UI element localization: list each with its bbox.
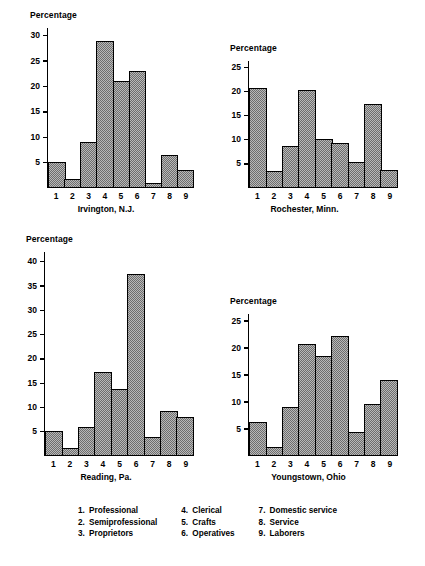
chart-panel-rochester: Percentage 510152025 123456789 Rochester… xyxy=(212,0,425,225)
bar xyxy=(129,71,146,187)
bar-group xyxy=(45,252,194,455)
y-tick-mark xyxy=(244,115,248,116)
legend-item-number: 4. xyxy=(181,505,192,517)
legend-item-label: Clerical xyxy=(192,506,222,515)
y-tick-mark xyxy=(43,137,47,138)
x-tick-labels: 123456789 xyxy=(249,192,398,201)
bar xyxy=(78,427,96,454)
legend-item: 4.Clerical xyxy=(181,505,234,517)
x-axis-line xyxy=(248,187,398,188)
legend-item-label: Proprietors xyxy=(89,529,133,538)
plot-area-reading: 510152025303540 xyxy=(44,252,194,456)
y-tick-label: 5 xyxy=(219,425,241,434)
bar xyxy=(266,447,284,454)
x-tick-label: 4 xyxy=(299,192,316,201)
x-tick-label: 3 xyxy=(78,460,95,469)
y-tick-mark xyxy=(40,358,44,359)
y-tick-mark xyxy=(43,162,47,163)
x-tick-label: 7 xyxy=(145,192,161,201)
y-tick-label: 15 xyxy=(18,107,40,116)
x-tick-label: 8 xyxy=(365,192,382,201)
legend-item: 7.Domestic service xyxy=(259,505,337,517)
y-tick-label: 10 xyxy=(219,135,241,144)
x-tick-label: 5 xyxy=(111,460,128,469)
x-tick-label: 1 xyxy=(249,460,266,469)
bar xyxy=(348,432,366,454)
y-tick-label: 15 xyxy=(219,111,241,120)
y-tick-mark xyxy=(244,401,248,402)
bar xyxy=(48,162,65,186)
legend-item-label: Semiprofessional xyxy=(89,518,157,527)
x-tick-labels: 123456789 xyxy=(249,460,398,469)
y-tick-label: 25 xyxy=(219,317,241,326)
x-tick-label: 8 xyxy=(365,460,382,469)
y-tick-label: 20 xyxy=(15,354,37,363)
chart-panel-youngstown: Percentage 510152025 123456789 Youngstow… xyxy=(212,225,425,490)
x-tick-label: 9 xyxy=(178,192,194,201)
y-tick-label: 15 xyxy=(219,371,241,380)
x-tick-label: 6 xyxy=(128,460,145,469)
legend-item-number: 8. xyxy=(259,517,270,529)
legend-item: 3.Proprietors xyxy=(78,528,157,540)
bar xyxy=(62,448,80,454)
x-tick-label: 3 xyxy=(282,460,299,469)
bar xyxy=(348,162,366,186)
legend-item-label: Service xyxy=(270,518,299,527)
bar xyxy=(249,422,267,455)
bar xyxy=(315,356,333,455)
chart-caption-rochester: Rochester, Minn. xyxy=(198,205,411,214)
x-tick-label: 6 xyxy=(129,192,145,201)
bar xyxy=(315,139,333,186)
y-tick-mark xyxy=(43,60,47,61)
y-tick-label: 25 xyxy=(219,63,241,72)
x-tick-label: 4 xyxy=(299,460,316,469)
legend-item-number: 6. xyxy=(181,528,192,540)
bar xyxy=(64,179,81,187)
y-tick-mark xyxy=(244,374,248,375)
bar xyxy=(298,344,316,455)
x-axis-line xyxy=(44,455,194,456)
bar xyxy=(145,183,162,187)
bar xyxy=(380,380,398,455)
plot-area-youngstown: 510152025 xyxy=(248,314,398,456)
legend-item-number: 1. xyxy=(78,505,89,517)
bar xyxy=(160,411,178,454)
legend-item-label: Operatives xyxy=(192,529,234,538)
bar xyxy=(177,170,194,187)
y-tick-label: 10 xyxy=(15,403,37,412)
y-tick-label: 5 xyxy=(18,158,40,167)
y-tick-mark xyxy=(40,334,44,335)
legend-column: 4.Clerical5.Crafts6.Operatives xyxy=(181,505,234,540)
bar-group xyxy=(48,28,194,187)
legend-item: 6.Operatives xyxy=(181,528,234,540)
x-tick-label: 7 xyxy=(348,460,365,469)
x-tick-label: 3 xyxy=(282,192,299,201)
axis-label-percentage: Percentage xyxy=(30,11,77,20)
y-tick-label: 10 xyxy=(18,133,40,142)
y-tick-mark xyxy=(244,347,248,348)
x-tick-label: 6 xyxy=(332,192,349,201)
bar-group xyxy=(249,314,398,455)
y-tick-label: 15 xyxy=(15,379,37,388)
bar xyxy=(80,142,97,186)
legend-item-number: 9. xyxy=(259,528,270,540)
x-tick-label: 9 xyxy=(382,192,399,201)
x-tick-labels: 123456789 xyxy=(48,192,194,201)
bar xyxy=(161,155,178,187)
bar xyxy=(364,404,382,454)
legend-item-number: 2. xyxy=(78,517,89,529)
legend-item-label: Laborers xyxy=(270,529,305,538)
legend-item: 2.Semiprofessional xyxy=(78,517,157,529)
axis-label-percentage: Percentage xyxy=(230,44,277,53)
y-tick-label: 30 xyxy=(15,306,37,315)
y-tick-label: 40 xyxy=(15,257,37,266)
y-tick-mark xyxy=(244,67,248,68)
bar xyxy=(380,170,398,187)
legend-item-number: 5. xyxy=(181,517,192,529)
y-tick-mark xyxy=(244,139,248,140)
y-tick-mark xyxy=(40,285,44,286)
bar xyxy=(364,104,382,186)
x-tick-label: 2 xyxy=(266,192,283,201)
y-tick-label: 25 xyxy=(18,57,40,66)
x-tick-label: 2 xyxy=(64,192,80,201)
